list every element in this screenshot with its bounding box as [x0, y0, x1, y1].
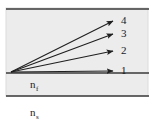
ray-label-2: 2 [121, 44, 127, 56]
substrate-index-subscript: s [36, 113, 39, 121]
ray-label-1: 1 [121, 64, 127, 76]
waveguide-ray-diagram: 4 3 2 1 nf ns [0, 0, 155, 125]
ray-label-4: 4 [121, 14, 127, 26]
substrate-index-label: ns [30, 106, 39, 121]
figure-canvas: 4 3 2 1 nf ns [0, 0, 155, 125]
waveguide-panel [6, 8, 148, 96]
ray-label-3: 3 [121, 27, 127, 39]
